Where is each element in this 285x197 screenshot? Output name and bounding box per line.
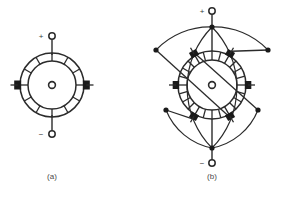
panel-b-negative-bus-node	[209, 145, 214, 150]
panel-b-negative-sign: −	[200, 159, 205, 168]
panel-b-caption: (b)	[207, 172, 217, 181]
panel-b-positive-sign: +	[200, 7, 205, 16]
equalizer-dot-upper-right	[265, 47, 270, 52]
panel-a-positive-terminal	[49, 33, 55, 39]
equalizer-dot-lower-left	[163, 107, 168, 112]
panel-a-caption: (a)	[47, 172, 57, 181]
equalizer-dot-upper-left	[153, 47, 158, 52]
panel-a-negative-terminal	[49, 131, 55, 137]
commutator-winding-figure: + − (a) + − (b)	[0, 0, 285, 197]
panel-b-positive-terminal	[209, 8, 215, 14]
panel-a-negative-sign: −	[39, 130, 44, 139]
panel-b-negative-terminal	[209, 160, 215, 166]
figure-background	[0, 0, 285, 197]
panel-a-positive-sign: +	[39, 32, 44, 41]
equalizer-dot-lower-right	[255, 107, 260, 112]
panel-b-positive-bus-node	[209, 24, 214, 29]
